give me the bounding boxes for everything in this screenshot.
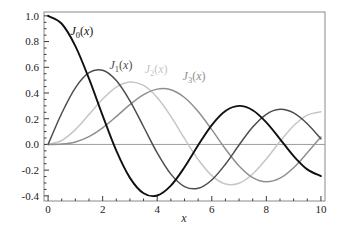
x-tick-label: 10 [315, 203, 327, 215]
curves-layer [48, 16, 321, 196]
plot-frame [44, 12, 325, 201]
curve-label-J0(x): J0(x) [70, 24, 93, 40]
curve-label-J3(x): J3(x) [183, 69, 206, 85]
x-tick-label: 8 [264, 203, 270, 215]
y-tick-label: -0.4 [22, 190, 40, 202]
chart-canvas: 0246810-0.4-0.20.00.20.40.60.81.0 J0(x)J… [0, 0, 343, 241]
bessel-functions-plot: 0246810-0.4-0.20.00.20.40.60.81.0 J0(x)J… [0, 0, 343, 241]
y-tick-label: 0.2 [25, 113, 39, 125]
curve-label-J2(x): J2(x) [145, 62, 168, 78]
y-tick-label: 1.0 [25, 10, 39, 22]
x-tick-label: 2 [100, 203, 106, 215]
y-tick-label: 0.0 [25, 138, 39, 150]
x-tick-label: 6 [209, 203, 215, 215]
y-tick-label: -0.2 [22, 164, 39, 176]
curve-J1(x) [48, 70, 321, 189]
curve-label-J1(x): J1(x) [109, 58, 132, 74]
y-tick-label: 0.4 [25, 87, 39, 99]
curve-J0(x) [48, 16, 321, 196]
tick-marks-layer [44, 16, 321, 201]
x-axis-title: x [180, 211, 187, 225]
y-tick-label: 0.6 [25, 61, 39, 73]
x-tick-label: 4 [154, 203, 160, 215]
tick-labels-layer: 0246810-0.4-0.20.00.20.40.60.81.0 [22, 10, 327, 215]
plot-frame-layer [44, 12, 325, 201]
curve-labels-layer: J0(x)J1(x)J2(x)J3(x) [70, 24, 205, 85]
y-tick-label: 0.8 [25, 35, 39, 47]
x-tick-label: 0 [45, 203, 51, 215]
